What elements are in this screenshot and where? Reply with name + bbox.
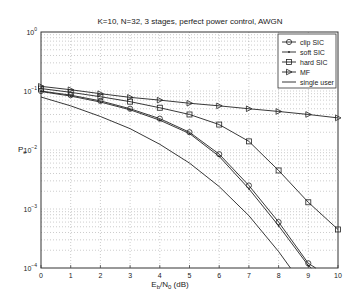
x-axis-ticks: 012345678910 (39, 265, 342, 279)
x-tick-label: 7 (247, 272, 251, 279)
chart: 012345678910 10010−110−210−310−4 K=10, N… (0, 0, 360, 304)
x-tick-label: 10 (334, 272, 342, 279)
y-tick-label: 10−4 (24, 262, 38, 272)
x-tick-label: 1 (69, 272, 73, 279)
y-tick-label: 100 (26, 26, 37, 36)
chart-title: K=10, N=32, 3 stages, perfect power cont… (97, 17, 282, 26)
legend: clip SICsoft SIChard SICMFsingle user (278, 34, 336, 88)
x-tick-label: 8 (277, 272, 281, 279)
series-clip-SIC (38, 88, 315, 268)
x-tick-label: 6 (217, 272, 221, 279)
legend-entry: hard SIC (300, 59, 328, 66)
x-tick-label: 5 (188, 272, 192, 279)
x-axis-label: Eb/N0 (dB) (151, 280, 189, 290)
x-tick-label: 3 (128, 272, 132, 279)
y-tick-label: 10−1 (24, 85, 38, 95)
x-tick-label: 4 (158, 272, 162, 279)
legend-entry: MF (300, 69, 310, 76)
legend-entry: single user (300, 79, 335, 87)
x-tick-label: 9 (306, 272, 310, 279)
legend-entry: soft SIC (300, 49, 325, 56)
series-lines (38, 84, 341, 268)
x-tick-label: 0 (39, 272, 43, 279)
y-tick-label: 10−3 (24, 203, 38, 213)
legend-entry: clip SIC (300, 39, 324, 47)
x-tick-label: 2 (98, 272, 102, 279)
